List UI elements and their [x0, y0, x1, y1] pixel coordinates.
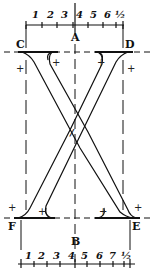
plus-mark: +	[8, 202, 16, 213]
bottom-ruler-label-7: 7	[109, 250, 116, 261]
plus-mark: +	[99, 206, 107, 217]
bottom-ruler-label-3: 3	[53, 250, 60, 261]
plus-mark: +	[134, 202, 142, 213]
point-label-e: E	[132, 220, 140, 233]
point-label-d: D	[125, 38, 135, 51]
top-ruler-label-4: 4	[76, 9, 83, 20]
bottom-ruler-label-4: 4	[68, 250, 75, 261]
top-ruler-labels: 1 2 3 4 5 6 ½	[32, 9, 125, 20]
point-label-f: F	[8, 220, 16, 233]
point-label-c: C	[16, 38, 25, 51]
top-ruler-label-5: 5	[90, 9, 97, 20]
bottom-ruler-label-half: ½	[121, 250, 131, 261]
plus-mark: +	[97, 57, 105, 68]
top-ruler-label-3: 3	[61, 9, 68, 20]
point-label-a: A	[70, 31, 80, 44]
x-construction-diagram: 1 2 3 4 5 6 ½	[0, 0, 155, 275]
plus-mark: +	[38, 206, 46, 217]
bottom-ruler	[18, 259, 135, 268]
bottom-ruler-label-2: 2	[37, 250, 45, 261]
plus-mark: +	[16, 63, 24, 74]
top-ruler-label-half: ½	[115, 9, 125, 20]
bottom-ruler-label-1: 1	[25, 250, 32, 261]
top-ruler-label-1: 1	[32, 9, 39, 20]
point-label-b: B	[71, 235, 80, 248]
plus-mark: +	[127, 63, 135, 74]
plus-mark: +	[52, 57, 60, 68]
top-ruler-label-2: 2	[46, 9, 54, 20]
top-ruler-label-6: 6	[104, 9, 111, 20]
bottom-ruler-label-6: 6	[96, 250, 103, 261]
bottom-ruler-label-5: 5	[81, 250, 88, 261]
letter-x	[14, 52, 140, 218]
bottom-ruler-labels: 1 2 3 4 5 6 7 ½	[25, 250, 131, 261]
